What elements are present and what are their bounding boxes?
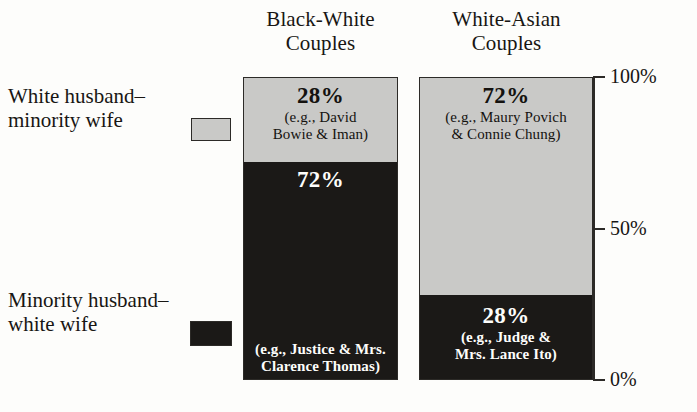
legend-label-minority-husband: Minority husband– white wife	[8, 288, 190, 337]
segment-right-bottom-example: (e.g., Judge & Mrs. Lance Ito)	[420, 329, 592, 363]
plot-area: 28% (e.g., David Bowie & Iman) 72% (e.g.…	[243, 77, 593, 380]
column-header-black-white: Black-White Couples	[243, 8, 398, 55]
legend-swatch-dark	[190, 321, 232, 346]
segment-right-top-example: (e.g., Maury Povich & Connie Chung)	[420, 109, 592, 143]
bar-black-white-couples: 28% (e.g., David Bowie & Iman) 72% (e.g.…	[243, 77, 398, 380]
segment-left-top-example: (e.g., David Bowie & Iman)	[244, 109, 397, 143]
segment-left-bottom-example: (e.g., Justice & Mrs. Clarence Thomas)	[244, 341, 397, 375]
chart-figure: Black-White Couples White-Asian Couples …	[0, 0, 697, 412]
segment-left-top-percent: 28%	[244, 83, 397, 108]
segment-right-bottom-percent: 28%	[420, 303, 592, 328]
segment-right-white-husband: 72% (e.g., Maury Povich & Connie Chung)	[420, 78, 592, 295]
column-header-white-asian: White-Asian Couples	[419, 8, 594, 55]
y-axis-tick-0	[593, 379, 605, 381]
y-axis-tick-50	[593, 228, 605, 230]
y-axis-label-100: 100%	[610, 66, 657, 86]
segment-right-top-percent: 72%	[420, 83, 592, 108]
segment-left-bottom-percent: 72%	[244, 167, 397, 192]
y-axis-tick-100	[593, 76, 605, 78]
y-axis-label-50: 50%	[610, 218, 647, 238]
segment-right-minority-husband: 28% (e.g., Judge & Mrs. Lance Ito)	[420, 295, 592, 379]
legend-swatch-light	[191, 118, 231, 141]
legend-label-white-husband: White husband– minority wife	[8, 84, 188, 133]
segment-left-white-husband: 28% (e.g., David Bowie & Iman)	[244, 78, 397, 162]
y-axis-label-0: 0%	[610, 369, 637, 389]
bar-white-asian-couples: 72% (e.g., Maury Povich & Connie Chung) …	[419, 77, 593, 380]
segment-left-minority-husband: 72% (e.g., Justice & Mrs. Clarence Thoma…	[244, 162, 397, 379]
